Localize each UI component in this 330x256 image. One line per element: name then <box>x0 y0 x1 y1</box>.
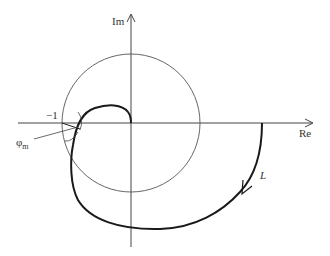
critical-point-label: −1 <box>46 110 58 121</box>
diagram-canvas <box>0 0 330 256</box>
phase-margin-subscript: m <box>22 142 28 151</box>
imag-axis-label: Im <box>112 16 124 27</box>
phase-margin-leader <box>34 127 78 139</box>
phase-margin-label: φm <box>16 137 29 151</box>
nyquist-diagram: Im Re −1 φm L <box>0 0 330 256</box>
nyquist-curve-L <box>71 105 262 229</box>
real-axis-label: Re <box>299 128 311 139</box>
curve-label: L <box>260 170 266 181</box>
